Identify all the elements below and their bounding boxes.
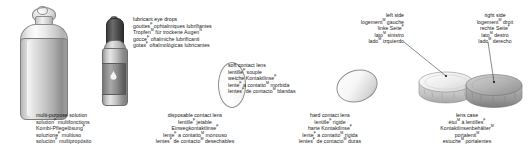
gender-marker: F bbox=[350, 124, 352, 128]
gender-marker: F bbox=[83, 124, 85, 128]
caption-term: solution bbox=[36, 119, 54, 125]
gender-marker: F bbox=[483, 118, 485, 122]
gender-marker: F bbox=[216, 124, 218, 128]
caption-line-en: multi-purpose solution bbox=[36, 112, 91, 119]
caption-term: lubricant eye drops bbox=[133, 16, 177, 22]
caption-term-rest: desechables bbox=[203, 138, 234, 144]
caption-term: multi-purpose solution bbox=[36, 112, 87, 118]
caption-term: lentes bbox=[156, 138, 170, 144]
caption-term: portalenti bbox=[455, 132, 477, 138]
caption-line-es: soluciónF multipropósito bbox=[36, 138, 91, 145]
caption-term: lentes bbox=[299, 138, 313, 144]
caption-term: gotas bbox=[133, 42, 146, 48]
caption-line-es: ladoM derecho bbox=[460, 38, 530, 45]
caption-term-rest: a contatto bbox=[316, 132, 340, 138]
caption-term: lentille bbox=[314, 119, 329, 125]
caption-term-rest: izquierdo bbox=[381, 38, 404, 44]
caption-line-es: ladoM izquierdo bbox=[330, 38, 404, 45]
caption-term: solución bbox=[36, 138, 55, 144]
caption-term: étui bbox=[449, 119, 457, 125]
caption-term: linke Seite bbox=[378, 25, 402, 31]
caption-term: lado bbox=[478, 38, 488, 44]
caption-term-rest: souple bbox=[245, 69, 262, 75]
caption-term-rest: oftalmiche lubrificanti bbox=[149, 36, 199, 42]
caption-term-rest: à lentilles bbox=[460, 119, 483, 125]
caption-line-de: Kombi-PflegelösungF bbox=[36, 125, 91, 132]
caption-term: lente bbox=[228, 82, 239, 88]
caption-left-side: left sidelogementM gauchelinke SeiteFlat… bbox=[330, 12, 404, 45]
caption-line-es: lentesF de contactoM desechables bbox=[135, 138, 255, 145]
caption-line-es: lentesF de contactoM blandas bbox=[228, 88, 296, 95]
caption-term-rest: portalentes bbox=[464, 138, 491, 144]
caption-term-rest: oftalmológicas lubricantes bbox=[148, 42, 210, 48]
caption-term-rest: multipropósito bbox=[57, 138, 91, 144]
caption-line-de: EinwegkontaktlinseF bbox=[135, 125, 255, 132]
caption-line-de: harte KontaktlinseF bbox=[268, 125, 392, 132]
caption-term-rest: rigide bbox=[331, 119, 345, 125]
caption-term: right side bbox=[484, 12, 505, 18]
caption-term-rest: a contatto bbox=[242, 82, 266, 88]
caption-line-es: gotasF oftalmológicas lubricantes bbox=[133, 42, 212, 49]
caption-term: rechte Seite bbox=[480, 25, 508, 31]
caption-term: lentes bbox=[228, 88, 242, 94]
caption-term: gouttes bbox=[133, 23, 150, 29]
caption-line-es: lentesF de contactoM duras bbox=[268, 138, 392, 145]
caption-soft-contact-lens: soft contact lenslentilleF soupleweiche … bbox=[228, 62, 296, 95]
gender-marker: F bbox=[402, 24, 404, 28]
caption-term-rest: destro bbox=[493, 32, 509, 38]
caption-line-en: lens case bbox=[404, 112, 530, 119]
caption-term-rest: derecho bbox=[491, 38, 511, 44]
caption-term-rest: duras bbox=[347, 138, 362, 144]
caption-term-rest: blandas bbox=[276, 88, 296, 94]
caption-term: left side bbox=[386, 12, 404, 18]
caption-line-en: lubricant eye drops bbox=[133, 16, 212, 23]
caption-term: estuche bbox=[443, 138, 461, 144]
gender-marker: F bbox=[508, 24, 510, 28]
caption-term-rest: de contacto bbox=[315, 138, 344, 144]
caption-line-de: rechte SeiteF bbox=[460, 25, 530, 32]
caption-term: Einwegkontaktlinse bbox=[172, 125, 217, 131]
caption-term-rest: jetable bbox=[195, 119, 212, 125]
caption-line-de: linke SeiteF bbox=[330, 25, 404, 32]
caption-term-rest: sinistro bbox=[386, 32, 404, 38]
caption-lens-case: lens caseétuiM à lentillesFKontaktlinsen… bbox=[404, 112, 530, 145]
caption-term-rest: monouso bbox=[204, 132, 227, 138]
caption-line-en: soft contact lens bbox=[228, 62, 296, 69]
caption-term-rest: ophtalmiques lubrifiantes bbox=[152, 23, 211, 29]
gender-marker: F bbox=[274, 74, 276, 78]
caption-line-en: right side bbox=[460, 12, 530, 19]
caption-term-rest: a contatto bbox=[177, 132, 201, 138]
caption-term: lado bbox=[368, 38, 378, 44]
caption-term: lente bbox=[163, 132, 174, 138]
caption-line-de: KontaktlinsenbehälterM bbox=[404, 125, 530, 132]
illustrated-glossary-page: multi-purpose solutionsolutionF multifon… bbox=[0, 0, 532, 158]
caption-hard-contact-lens: hard contact lenslentilleF rigideharte K… bbox=[268, 112, 392, 145]
caption-multi-purpose-solution: multi-purpose solutionsolutionF multifon… bbox=[36, 112, 91, 145]
caption-term: soft contact lens bbox=[228, 62, 266, 68]
caption-term-rest: de contacto bbox=[244, 88, 273, 94]
gender-marker: M bbox=[476, 131, 479, 135]
gender-marker: N bbox=[199, 28, 202, 32]
caption-term: lentille bbox=[178, 119, 193, 125]
caption-term-rest: multiuso bbox=[60, 132, 81, 138]
caption-term-rest: für trockene Augen bbox=[154, 29, 199, 35]
caption-disposable-contact-lens: disposable contact lenslentilleF jetable… bbox=[135, 112, 255, 145]
caption-right-side: right sidelogementM droitrechte SeiteFla… bbox=[460, 12, 530, 45]
caption-term-rest: de contacto bbox=[172, 138, 201, 144]
caption-line-en: left side bbox=[330, 12, 404, 19]
caption-term: Kontaktlinsenbehälter bbox=[440, 125, 490, 131]
caption-term: logement bbox=[477, 19, 499, 25]
caption-line-es: estucheM portalentes bbox=[404, 138, 530, 145]
caption-term: lentille bbox=[228, 69, 243, 75]
caption-line-de: TropfenM für trockene AugenN bbox=[133, 29, 212, 36]
caption-term: logement bbox=[361, 19, 383, 25]
gender-marker: M bbox=[491, 124, 494, 128]
caption-lubricant-eye-drops: lubricant eye dropsgouttesF ophtalmiques… bbox=[133, 16, 212, 49]
